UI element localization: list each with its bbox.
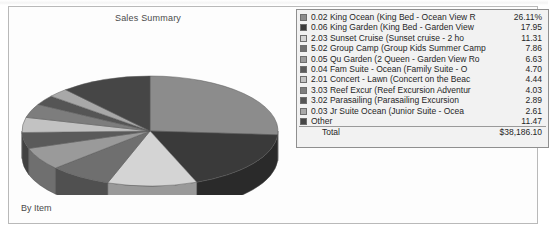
legend-color-swatch <box>300 97 307 104</box>
legend-item-value: 26.11% <box>497 12 546 22</box>
legend-item-value: 4.70 <box>497 64 546 74</box>
legend-color-swatch <box>300 108 307 115</box>
legend-color-swatch <box>300 45 307 52</box>
legend-item-value: 2.61 <box>497 106 546 116</box>
legend-total-spacer <box>299 127 310 139</box>
legend-total-row: Total$38,186.10 <box>299 127 546 139</box>
legend-color-swatch <box>300 118 307 125</box>
legend-color-swatch <box>300 56 307 63</box>
legend-swatch-cell <box>299 12 310 22</box>
legend-item-label: 0.05 Qu Garden (2 Queen - Garden View Ro <box>310 54 497 64</box>
legend-row: Other11.47 <box>299 116 546 127</box>
chart-title: Sales Summary <box>9 13 287 23</box>
legend-swatch-cell <box>299 95 310 105</box>
legend-swatch-cell <box>299 85 310 95</box>
pie-chart-svg <box>19 69 281 195</box>
legend-row: 5.02 Group Camp (Group Kids Summer Camp7… <box>299 43 546 53</box>
legend-item-value: 4.03 <box>497 85 546 95</box>
legend-swatch-cell <box>299 106 310 116</box>
scan-artifact-strip <box>0 0 548 5</box>
legend-swatch-cell <box>299 33 310 43</box>
legend-color-swatch <box>300 66 307 73</box>
legend-item-label: 0.02 King Ocean (King Bed - Ocean View R <box>310 12 497 22</box>
legend-row: 0.03 Jr Suite Ocean (Junior Suite - Ocea… <box>299 106 546 116</box>
legend-swatch-cell <box>299 43 310 53</box>
legend-total-label: Total <box>310 127 497 139</box>
legend-color-swatch <box>300 87 307 94</box>
legend-item-value: 7.86 <box>497 43 546 53</box>
legend-row: 0.02 King Ocean (King Bed - Ocean View R… <box>299 12 546 22</box>
legend-item-label: 0.03 Jr Suite Ocean (Junior Suite - Ocea <box>310 106 497 116</box>
legend-row: 3.03 Reef Excur (Reef Excursion Adventur… <box>299 85 546 95</box>
chart-footer-label: By Item <box>21 203 52 213</box>
legend-item-value: 6.63 <box>497 54 546 64</box>
legend-table: 0.02 King Ocean (King Bed - Ocean View R… <box>299 12 546 139</box>
legend-item-value: 11.31 <box>497 33 546 43</box>
legend-color-swatch <box>300 24 307 31</box>
legend-color-swatch <box>300 76 307 83</box>
legend-color-swatch <box>300 35 307 42</box>
legend-item-value: 4.44 <box>497 74 546 84</box>
legend-item-label: 2.01 Concert - Lawn (Concert on the Beac <box>310 74 497 84</box>
pie-top-faces <box>22 76 278 186</box>
report-frame: Sales Summary By Item 0.02 King Ocean (K… <box>8 6 538 224</box>
legend-row: 3.02 Parasailing (Parasailing Excursion2… <box>299 95 546 105</box>
pie-slice <box>150 76 278 135</box>
legend-item-label: 3.02 Parasailing (Parasailing Excursion <box>310 95 497 105</box>
legend-item-value: 2.89 <box>497 95 546 105</box>
legend-color-swatch <box>300 14 307 21</box>
legend-row: 0.05 Qu Garden (2 Queen - Garden View Ro… <box>299 54 546 64</box>
legend-item-label: 0.06 King Garden (King Bed - Garden View <box>310 22 497 32</box>
legend-item-value: 17.95 <box>497 22 546 32</box>
legend-item-label: Other <box>310 116 497 127</box>
legend-row: 2.03 Sunset Cruise (Sunset cruise - 2 ho… <box>299 33 546 43</box>
legend-item-label: 3.03 Reef Excur (Reef Excursion Adventur <box>310 85 497 95</box>
legend-item-label: 0.04 Fam Suite - Ocean (Family Suite - O <box>310 64 497 74</box>
chart-panel: Sales Summary By Item <box>9 7 287 223</box>
legend-swatch-cell <box>299 22 310 32</box>
pie-chart <box>19 69 281 195</box>
legend-panel: 0.02 King Ocean (King Bed - Ocean View R… <box>296 9 549 148</box>
legend-swatch-cell <box>299 116 310 127</box>
legend-item-value: 11.47 <box>497 116 546 127</box>
legend-total-value: $38,186.10 <box>497 127 546 139</box>
legend-item-label: 5.02 Group Camp (Group Kids Summer Camp <box>310 43 497 53</box>
legend-row: 2.01 Concert - Lawn (Concert on the Beac… <box>299 74 546 84</box>
legend-item-label: 2.03 Sunset Cruise (Sunset cruise - 2 ho <box>310 33 497 43</box>
legend-swatch-cell <box>299 54 310 64</box>
legend-row: 0.04 Fam Suite - Ocean (Family Suite - O… <box>299 64 546 74</box>
legend-swatch-cell <box>299 64 310 74</box>
legend-swatch-cell <box>299 74 310 84</box>
legend-row: 0.06 King Garden (King Bed - Garden View… <box>299 22 546 32</box>
